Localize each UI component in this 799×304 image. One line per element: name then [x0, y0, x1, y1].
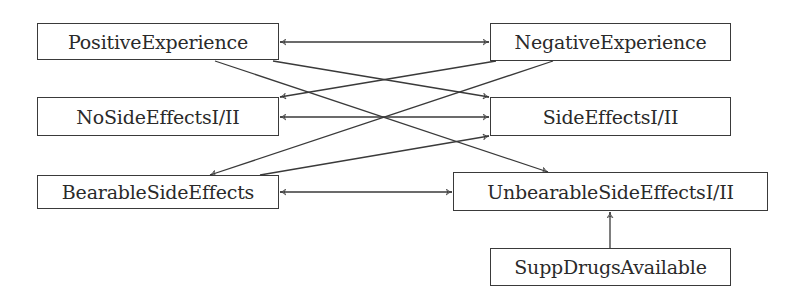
- node-label: UnbearableSideEffectsI/II: [487, 181, 734, 203]
- node-label: NegativeExperience: [515, 31, 707, 53]
- node-negative-experience: NegativeExperience: [490, 23, 731, 61]
- edge-negative-to-noside: [280, 61, 496, 97]
- node-positive-experience: PositiveExperience: [37, 23, 279, 60]
- node-label: NoSideEffectsI/II: [76, 106, 239, 128]
- edge-bearable-to-sideeffects: [260, 136, 489, 175]
- node-bearable-side-effects: BearableSideEffects: [37, 175, 279, 209]
- node-label: SuppDrugsAvailable: [514, 256, 706, 278]
- node-unbearable-side-effects: UnbearableSideEffectsI/II: [453, 172, 768, 211]
- node-side-effects: SideEffectsI/II: [490, 97, 731, 136]
- node-no-side-effects: NoSideEffectsI/II: [37, 97, 279, 136]
- node-supp-drugs-available: SuppDrugsAvailable: [490, 248, 731, 286]
- node-label: SideEffectsI/II: [543, 106, 679, 128]
- node-label: PositiveExperience: [68, 31, 248, 53]
- node-label: BearableSideEffects: [62, 181, 254, 203]
- edge-layer: [210, 42, 610, 248]
